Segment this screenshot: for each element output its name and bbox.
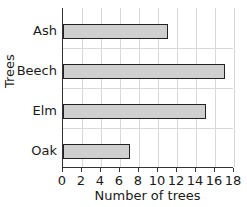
y-category-label: Beech bbox=[17, 63, 57, 78]
x-tick bbox=[138, 168, 139, 172]
bar-ash bbox=[63, 24, 168, 39]
x-tick-label: 2 bbox=[71, 173, 91, 188]
gridline-horizontal bbox=[63, 48, 233, 49]
x-tick-label: 18 bbox=[223, 173, 243, 188]
x-tick bbox=[233, 168, 234, 172]
bar-elm bbox=[63, 104, 206, 119]
x-tick bbox=[100, 168, 101, 172]
x-tick bbox=[195, 168, 196, 172]
x-axis-title: Number of trees bbox=[62, 188, 233, 203]
x-tick bbox=[214, 168, 215, 172]
x-tick-label: 16 bbox=[204, 173, 224, 188]
gridline-horizontal bbox=[63, 128, 233, 129]
y-category-label: Elm bbox=[33, 103, 58, 118]
gridline-horizontal bbox=[63, 88, 233, 89]
x-tick bbox=[176, 168, 177, 172]
x-tick-label: 12 bbox=[166, 173, 186, 188]
bar-chart: Number of trees Trees 024681012141618Ash… bbox=[0, 0, 247, 207]
y-category-label: Oak bbox=[31, 143, 57, 158]
x-tick bbox=[157, 168, 158, 172]
bar-beech bbox=[63, 64, 225, 79]
x-tick bbox=[62, 168, 63, 172]
x-tick-label: 10 bbox=[147, 173, 167, 188]
x-tick-label: 6 bbox=[109, 173, 129, 188]
x-tick-label: 0 bbox=[52, 173, 72, 188]
y-category-label: Ash bbox=[33, 23, 57, 38]
x-tick-label: 4 bbox=[90, 173, 110, 188]
x-tick-label: 14 bbox=[185, 173, 205, 188]
plot-area bbox=[62, 8, 233, 168]
gridline-vertical bbox=[234, 8, 235, 167]
x-tick bbox=[81, 168, 82, 172]
x-tick-label: 8 bbox=[128, 173, 148, 188]
x-tick bbox=[119, 168, 120, 172]
y-axis-title: Trees bbox=[2, 54, 17, 88]
bar-oak bbox=[63, 144, 130, 159]
